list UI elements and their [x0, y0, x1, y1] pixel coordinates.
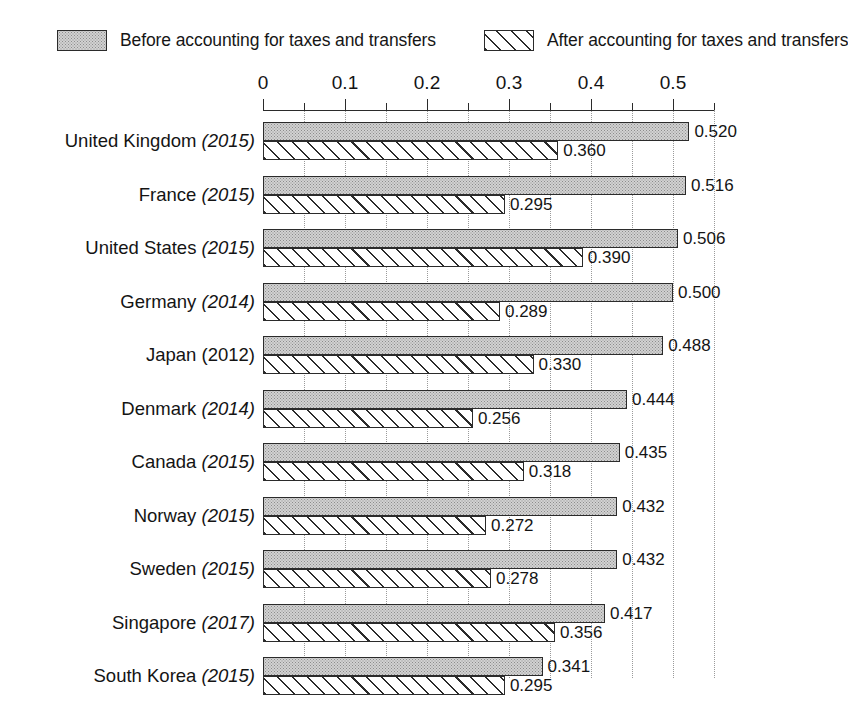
axis-tick-major: [509, 99, 510, 110]
axis-tick-label: 0.1: [332, 72, 358, 94]
bar-row: 0.5160.295: [263, 176, 714, 214]
category-label: France (2015): [5, 185, 255, 205]
legend-swatch-diagonal-hatch-icon: [484, 30, 534, 51]
category-label: Norway (2015): [5, 506, 255, 526]
category-label: United States (2015): [5, 238, 255, 258]
legend-label-after: After accounting for taxes and transfers: [547, 30, 848, 51]
bar-after: [263, 141, 558, 160]
category-country-name: United States: [85, 237, 201, 258]
category-label: Canada (2015): [5, 452, 255, 472]
bar-value-label-before: 0.520: [694, 122, 737, 141]
bar-value-label-before: 0.435: [625, 443, 668, 462]
bar-row: 0.4440.256: [263, 390, 714, 428]
category-label: Germany (2014): [5, 292, 255, 312]
bar-value-label-after: 0.360: [563, 141, 606, 160]
category-label: United Kingdom (2015): [5, 131, 255, 151]
bar-before: [263, 390, 627, 409]
category-year: (2015): [202, 665, 255, 686]
category-year: (2015): [202, 505, 255, 526]
axis-tick-minor: [386, 103, 387, 110]
bar-value-label-after: 0.278: [496, 569, 539, 588]
value-axis-line: [263, 110, 714, 111]
bar-value-label-after: 0.295: [510, 195, 553, 214]
axis-tick-minor: [304, 103, 305, 110]
bar-row: 0.4170.356: [263, 604, 714, 642]
category-year: (2015): [202, 184, 255, 205]
axis-tick-minor: [550, 103, 551, 110]
bar-after: [263, 302, 500, 321]
category-label: Japan (2012): [5, 345, 255, 365]
category-country-name: France: [139, 184, 202, 205]
axis-tick-major: [427, 99, 428, 110]
category-year: (2015): [202, 237, 255, 258]
bar-value-label-before: 0.417: [610, 604, 653, 623]
category-year: (2014): [202, 398, 255, 419]
axis-tick-label: 0.5: [660, 72, 686, 94]
axis-tick-minor: [632, 103, 633, 110]
bar-row: 0.4320.272: [263, 497, 714, 535]
bar-value-label-before: 0.432: [622, 550, 665, 569]
legend-item-before: Before accounting for taxes and transfer…: [57, 30, 436, 51]
bar-value-label-before: 0.341: [548, 657, 591, 676]
axis-tick-major: [345, 99, 346, 110]
category-axis-labels: United Kingdom (2015)France (2015)United…: [0, 110, 255, 678]
category-country-name: South Korea: [94, 665, 202, 686]
category-year: (2012): [202, 344, 255, 365]
bar-value-label-before: 0.500: [678, 283, 721, 302]
axis-tick-minor: [468, 103, 469, 110]
category-country-name: Sweden: [130, 558, 202, 579]
axis-tick-label: 0.4: [578, 72, 604, 94]
bar-value-label-before: 0.488: [668, 336, 711, 355]
bar-before: [263, 283, 673, 302]
category-country-name: Singapore: [112, 612, 201, 633]
category-country-name: United Kingdom: [65, 130, 202, 151]
value-axis-ticks: [263, 99, 714, 110]
category-country-name: Germany: [120, 291, 201, 312]
bar-row: 0.3410.295: [263, 657, 714, 695]
bar-row: 0.5060.390: [263, 229, 714, 267]
legend-swatch-gray-stipple-icon: [57, 30, 107, 51]
legend-item-after: After accounting for taxes and transfers: [484, 30, 848, 51]
bar-value-label-after: 0.318: [529, 462, 572, 481]
bar-value-label-after: 0.295: [510, 676, 553, 695]
bar-row: 0.4350.318: [263, 443, 714, 481]
category-country-name: Denmark: [121, 398, 201, 419]
category-year: (2015): [202, 451, 255, 472]
category-year: (2017): [202, 612, 255, 633]
axis-tick-major: [673, 99, 674, 110]
chart-plot-area: 00.10.20.30.40.5 0.5200.3600.5160.2950.5…: [263, 110, 714, 678]
category-year: (2014): [202, 291, 255, 312]
chart-legend: Before accounting for taxes and transfer…: [0, 30, 836, 64]
bar-after: [263, 623, 555, 642]
bar-after: [263, 248, 583, 267]
category-country-name: Japan: [146, 344, 202, 365]
category-year: (2015): [202, 130, 255, 151]
axis-tick-minor: [714, 103, 715, 110]
bar-before: [263, 443, 620, 462]
bar-before: [263, 122, 689, 141]
category-country-name: Norway: [134, 505, 202, 526]
gridline: [714, 110, 715, 678]
category-year: (2015): [202, 558, 255, 579]
bar-before: [263, 336, 663, 355]
category-label: South Korea (2015): [5, 666, 255, 686]
bar-after: [263, 569, 491, 588]
bar-before: [263, 229, 678, 248]
bar-row: 0.5200.360: [263, 122, 714, 160]
bar-after: [263, 676, 505, 695]
axis-tick-major: [591, 99, 592, 110]
bar-value-label-before: 0.506: [683, 229, 726, 248]
bar-value-label-after: 0.289: [505, 302, 548, 321]
category-label: Singapore (2017): [5, 613, 255, 633]
bar-value-label-after: 0.390: [588, 248, 631, 267]
axis-tick-label: 0.3: [496, 72, 522, 94]
bar-value-label-after: 0.256: [478, 409, 521, 428]
axis-tick-major: [263, 99, 264, 110]
bar-value-label-before: 0.516: [691, 176, 734, 195]
category-label: Denmark (2014): [5, 399, 255, 419]
bar-after: [263, 355, 534, 374]
category-label: Sweden (2015): [5, 559, 255, 579]
axis-tick-label: 0.2: [414, 72, 440, 94]
bar-before: [263, 604, 605, 623]
bar-value-label-after: 0.272: [491, 516, 534, 535]
